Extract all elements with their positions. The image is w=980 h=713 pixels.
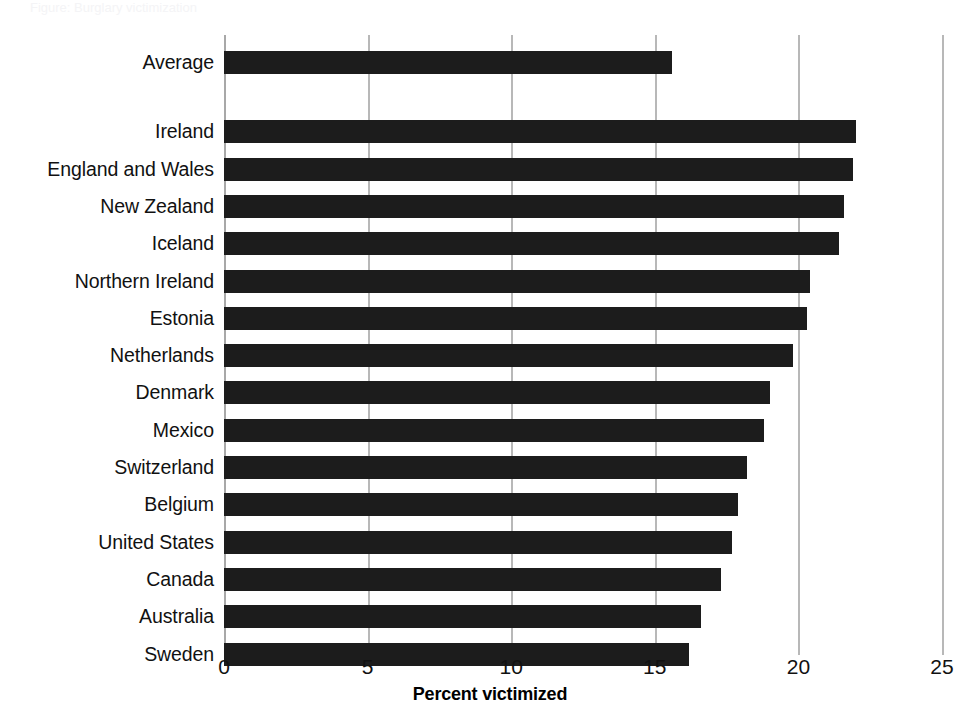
category-label-canada: Canada (4, 568, 214, 591)
x-tick-label-25: 25 (930, 655, 953, 679)
bar-denmark[interactable] (224, 381, 770, 404)
category-label-denmark: Denmark (4, 381, 214, 404)
category-label-sweden: Sweden (4, 643, 214, 666)
bar-row[interactable] (224, 120, 942, 143)
bar-new-zealand[interactable] (224, 195, 844, 218)
category-label-england-and-wales: England and Wales (4, 158, 214, 181)
x-tick-label-20: 20 (787, 655, 810, 679)
bar-northern-ireland[interactable] (224, 270, 810, 293)
category-label-mexico: Mexico (4, 419, 214, 442)
category-label-estonia: Estonia (4, 307, 214, 330)
category-label-iceland: Iceland (4, 232, 214, 255)
bar-row[interactable] (224, 232, 942, 255)
category-label-netherlands: Netherlands (4, 344, 214, 367)
category-label-ireland: Ireland (4, 120, 214, 143)
category-label-australia: Australia (4, 605, 214, 628)
bar-row[interactable] (224, 51, 942, 74)
x-tick-label-5: 5 (362, 655, 374, 679)
bar-ireland[interactable] (224, 120, 856, 143)
bar-iceland[interactable] (224, 232, 839, 255)
bar-row[interactable] (224, 270, 942, 293)
category-label-belgium: Belgium (4, 493, 214, 516)
bar-australia[interactable] (224, 605, 701, 628)
bar-row[interactable] (224, 381, 942, 404)
bar-sweden[interactable] (224, 643, 689, 666)
bar-chart-figure: Figure: Burglary victimization AverageIr… (0, 0, 980, 713)
category-label-average: Average (4, 51, 214, 74)
bar-canada[interactable] (224, 568, 721, 591)
bar-united-states[interactable] (224, 531, 732, 554)
bar-average[interactable] (224, 51, 672, 74)
category-label-switzerland: Switzerland (4, 456, 214, 479)
bar-row[interactable] (224, 493, 942, 516)
bar-row[interactable] (224, 344, 942, 367)
category-label-northern-ireland: Northern Ireland (4, 270, 214, 293)
bar-estonia[interactable] (224, 307, 807, 330)
bar-netherlands[interactable] (224, 344, 793, 367)
bar-row[interactable] (224, 195, 942, 218)
x-tick-label-0: 0 (218, 655, 230, 679)
bar-england-and-wales[interactable] (224, 158, 853, 181)
bar-row[interactable] (224, 307, 942, 330)
bar-row[interactable] (224, 531, 942, 554)
bar-row[interactable] (224, 419, 942, 442)
faded-cropped-header: Figure: Burglary victimization (30, 0, 197, 15)
x-tick-label-15: 15 (643, 655, 666, 679)
bar-row[interactable] (224, 568, 942, 591)
category-label-united-states: United States (4, 531, 214, 554)
gridline-25 (942, 35, 944, 655)
x-tick-label-10: 10 (500, 655, 523, 679)
bar-switzerland[interactable] (224, 456, 747, 479)
bars-layer (224, 35, 942, 633)
bar-row[interactable] (224, 456, 942, 479)
category-axis-labels: AverageIrelandEngland and WalesNew Zeala… (0, 35, 214, 633)
bar-mexico[interactable] (224, 419, 764, 442)
bar-row[interactable] (224, 643, 942, 666)
category-label-new-zealand: New Zealand (4, 195, 214, 218)
bar-row[interactable] (224, 158, 942, 181)
bar-row[interactable] (224, 605, 942, 628)
bar-belgium[interactable] (224, 493, 738, 516)
x-axis-title: Percent victimized (0, 684, 980, 705)
plot-area (224, 35, 942, 633)
